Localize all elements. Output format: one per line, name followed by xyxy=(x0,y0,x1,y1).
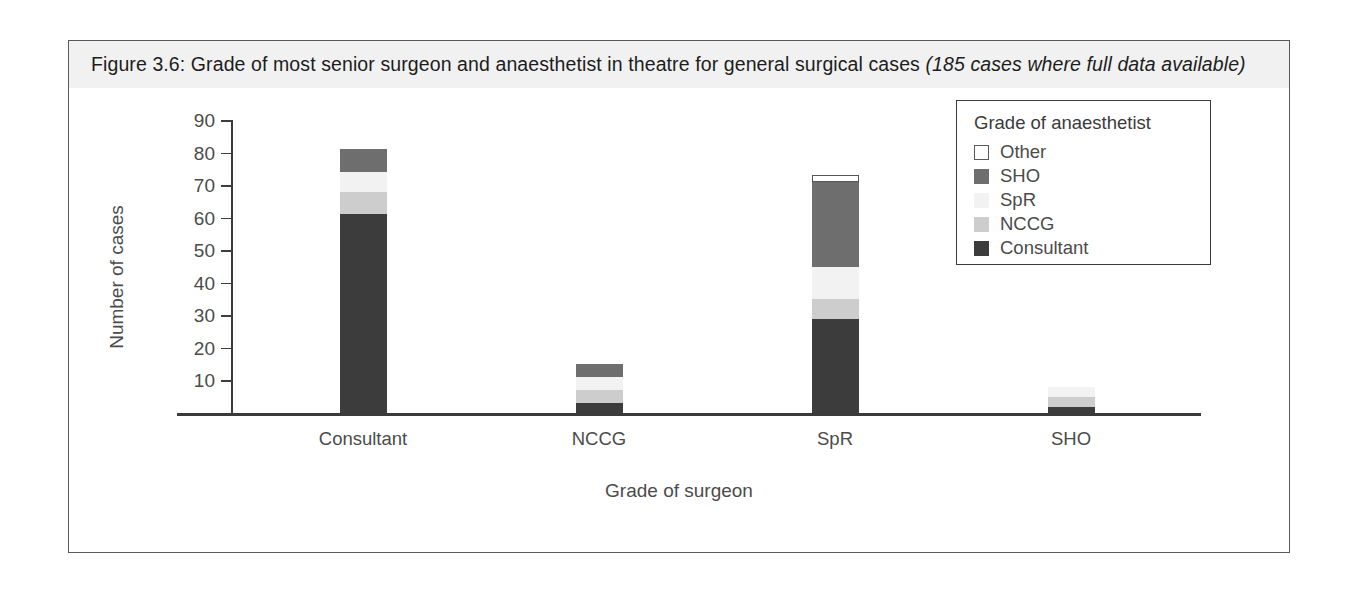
bar-segment-nccg[interactable] xyxy=(812,299,859,319)
legend-entries: OtherSHOSpRNCCGConsultant xyxy=(974,141,1210,260)
plot-area: Number of cases 908070605040302010 Consu… xyxy=(69,88,1289,552)
legend-label: SpR xyxy=(1000,191,1036,210)
figure-title-note: (185 cases where full data available) xyxy=(926,53,1246,75)
bar-segment-sho[interactable] xyxy=(340,149,387,172)
y-axis-tick-mark xyxy=(221,250,232,252)
x-axis-tick-label: SpR xyxy=(817,428,853,450)
legend-item-other[interactable]: Other xyxy=(974,141,1210,164)
bar-segments xyxy=(1048,387,1095,413)
legend-swatch-nccg xyxy=(974,217,989,232)
bar-segment-sho[interactable] xyxy=(812,182,859,267)
chart-legend: Grade of anaesthetist OtherSHOSpRNCCGCon… xyxy=(956,100,1211,265)
bar-stack-consultant[interactable] xyxy=(340,88,387,413)
legend-swatch-consultant xyxy=(974,241,989,256)
x-axis-tick-label: NCCG xyxy=(572,428,626,450)
x-axis-title: Grade of surgeon xyxy=(69,480,1289,502)
legend-swatch-other xyxy=(974,145,989,160)
x-axis-tick-label: SHO xyxy=(1051,428,1091,450)
legend-item-nccg[interactable]: NCCG xyxy=(974,213,1210,236)
legend-swatch-spr xyxy=(974,193,989,208)
figure-title-main: Figure 3.6: Grade of most senior surgeon… xyxy=(91,53,920,75)
legend-label: Consultant xyxy=(1000,239,1088,258)
bar-segment-consultant[interactable] xyxy=(1048,407,1095,414)
y-axis-tick-mark xyxy=(221,283,232,285)
figure-frame: Figure 3.6: Grade of most senior surgeon… xyxy=(68,40,1290,553)
legend-label: NCCG xyxy=(1000,215,1054,234)
bar-segment-spr[interactable] xyxy=(1048,387,1095,397)
legend-swatch-sho xyxy=(974,169,989,184)
bar-segment-spr[interactable] xyxy=(340,172,387,192)
bar-stack-nccg[interactable] xyxy=(576,88,623,413)
bar-segment-nccg[interactable] xyxy=(340,192,387,215)
bar-segment-consultant[interactable] xyxy=(812,319,859,413)
bar-segments xyxy=(812,175,859,413)
bar-segment-spr[interactable] xyxy=(812,267,859,300)
y-axis-tick-mark xyxy=(221,120,232,122)
bar-segments xyxy=(340,149,387,413)
legend-label: Other xyxy=(1000,143,1046,162)
legend-title: Grade of anaesthetist xyxy=(974,112,1210,134)
bar-segment-nccg[interactable] xyxy=(1048,397,1095,407)
y-axis-tick-mark xyxy=(221,218,232,220)
y-axis-tick-mark xyxy=(221,153,232,155)
legend-item-spr[interactable]: SpR xyxy=(974,189,1210,212)
figure-page: Figure 3.6: Grade of most senior surgeon… xyxy=(0,0,1357,600)
legend-label: SHO xyxy=(1000,167,1040,186)
bar-segment-consultant[interactable] xyxy=(340,214,387,413)
bar-segment-nccg[interactable] xyxy=(576,390,623,403)
bar-segment-sho[interactable] xyxy=(576,364,623,377)
bar-segment-consultant[interactable] xyxy=(576,403,623,413)
legend-item-consultant[interactable]: Consultant xyxy=(974,237,1210,260)
figure-title: Figure 3.6: Grade of most senior surgeon… xyxy=(69,53,1246,76)
y-axis-tick-mark xyxy=(221,348,232,350)
y-axis-tick-mark xyxy=(221,380,232,382)
bar-segment-spr[interactable] xyxy=(576,377,623,390)
legend-item-sho[interactable]: SHO xyxy=(974,165,1210,188)
y-axis-tick-mark xyxy=(221,315,232,317)
bar-stack-spr[interactable] xyxy=(812,88,859,413)
figure-title-band: Figure 3.6: Grade of most senior surgeon… xyxy=(69,41,1289,88)
bar-segments xyxy=(576,364,623,413)
y-axis-tick-mark xyxy=(221,185,232,187)
x-axis-tick-label: Consultant xyxy=(319,428,407,450)
